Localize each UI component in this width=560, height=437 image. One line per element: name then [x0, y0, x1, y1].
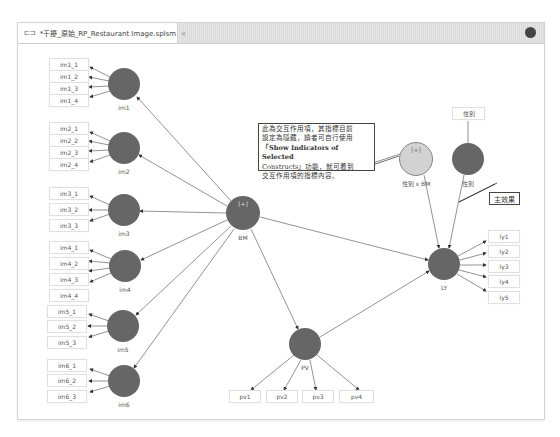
- tab-title: *干擾_原始_RP_Restaurant Image.splsm: [40, 28, 176, 38]
- indicator-im5_3[interactable]: im5_3: [47, 336, 87, 349]
- indicator-im3_1[interactable]: im3_1: [49, 187, 89, 200]
- construct-label-im5[interactable]: im5: [117, 346, 128, 353]
- indicator-ly2[interactable]: ly2: [488, 245, 520, 258]
- construct-label-bm[interactable]: BM: [238, 234, 247, 241]
- note-line-1: 此為交互作用項，其指標目前: [262, 125, 371, 134]
- expand-marker-bm[interactable]: [+]: [238, 200, 248, 207]
- indicator-im1_4[interactable]: im1_4: [49, 94, 89, 107]
- indicator-im4_3[interactable]: im4_3: [49, 273, 89, 286]
- indicator-im6_2[interactable]: im6_2: [47, 374, 87, 387]
- path-diagram: [18, 44, 546, 421]
- indicator-gender[interactable]: 性別: [452, 107, 485, 120]
- model-file-icon: ⊏⊐: [24, 29, 36, 37]
- note-line-2: 設定為隱藏，讀者可自行使用: [262, 134, 371, 143]
- construct-label-im4[interactable]: im4: [119, 286, 130, 293]
- model-editor-window: ⊏⊐ *干擾_原始_RP_Restaurant Image.splsm ✕: [17, 22, 545, 420]
- indicator-im4_1[interactable]: im4_1: [49, 241, 89, 254]
- note-line-3: 「Show Indicators of Selected: [262, 144, 371, 163]
- indicator-ly3[interactable]: ly3: [488, 260, 520, 273]
- indicator-pv3[interactable]: pv3: [302, 390, 334, 403]
- indicator-im4_4[interactable]: im4_4: [49, 289, 89, 302]
- construct-label-im6[interactable]: im6: [118, 401, 129, 408]
- expand-marker-interaction[interactable]: [+]: [411, 146, 421, 153]
- indicator-pv4[interactable]: pv4: [339, 390, 374, 403]
- indicator-im5_1[interactable]: im5_1: [47, 305, 87, 318]
- construct-label-im3[interactable]: im3: [118, 230, 129, 237]
- close-icon[interactable]: ✕: [181, 30, 186, 37]
- construct-label-im1[interactable]: im1: [118, 104, 129, 111]
- indicator-ly4[interactable]: ly4: [488, 275, 520, 288]
- indicator-im3_2[interactable]: im3_2: [49, 203, 89, 216]
- view-menu-icon[interactable]: [525, 27, 536, 38]
- note-line-4: Constructs」功能，就可看到: [262, 163, 371, 172]
- construct-label-pv[interactable]: PV: [301, 364, 309, 371]
- indicator-im6_1[interactable]: im6_1: [47, 359, 87, 372]
- indicator-ly1[interactable]: ly1: [488, 230, 520, 243]
- indicator-im4_2[interactable]: im4_2: [49, 257, 89, 270]
- construct-label-ly[interactable]: LY: [441, 284, 447, 291]
- tab-model-file[interactable]: ⊏⊐ *干擾_原始_RP_Restaurant Image.splsm ✕: [18, 23, 178, 43]
- construct-label-gender[interactable]: 性別: [462, 179, 474, 188]
- indicator-im2_4[interactable]: im2_4: [49, 158, 89, 171]
- indicator-im3_3[interactable]: im3_3: [49, 219, 89, 232]
- indicator-pv2[interactable]: pv2: [266, 390, 298, 403]
- note-line-5: 交互作用項的指標內容。: [262, 172, 371, 181]
- construct-label-interaction[interactable]: 性別 x BM: [402, 179, 431, 188]
- indicator-pv1[interactable]: pv1: [229, 390, 261, 403]
- interaction-note-callout: 此為交互作用項，其指標目前 設定為隱藏，讀者可自行使用 「Show Indica…: [258, 123, 375, 171]
- construct-label-im2[interactable]: im2: [118, 168, 129, 175]
- main-effect-callout: 主效果: [489, 192, 520, 205]
- indicator-im6_3[interactable]: im6_3: [47, 390, 87, 403]
- path-model-canvas[interactable]: im1_1 im1_2 im1_3 im1_4 im2_1 im2_2 im2_…: [18, 44, 544, 419]
- indicator-ly5[interactable]: ly5: [488, 291, 520, 304]
- indicator-im5_2[interactable]: im5_2: [47, 320, 87, 333]
- editor-tab-bar: ⊏⊐ *干擾_原始_RP_Restaurant Image.splsm ✕: [18, 23, 544, 44]
- construct-nodes: [107, 68, 484, 397]
